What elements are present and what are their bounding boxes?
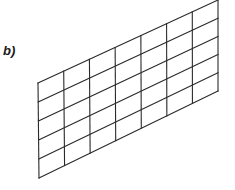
grid-vertical-line (38, 83, 39, 178)
sheared-grid-diagram (0, 0, 235, 190)
grid-vertical-line (115, 47, 116, 140)
grid-horizontal-line (38, 18, 218, 102)
grid-vertical-line (89, 59, 90, 153)
grid-horizontal-line (38, 0, 218, 83)
grid-horizontal-line (39, 91, 218, 178)
grid-vertical-line (64, 71, 65, 165)
grid-horizontal-line (39, 73, 218, 159)
grid-horizontal-line (38, 36, 218, 121)
grid-horizontal-line (39, 55, 218, 140)
